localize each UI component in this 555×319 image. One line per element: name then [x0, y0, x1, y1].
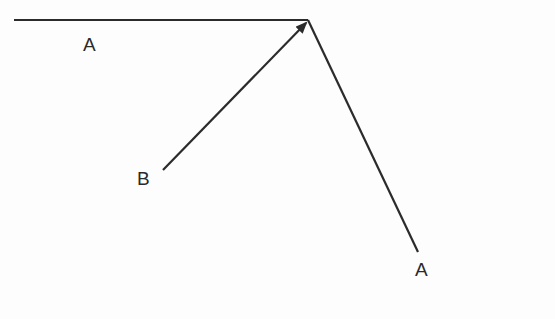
label-a-bottom: A [415, 259, 428, 281]
label-a-top: A [83, 34, 96, 56]
label-b: B [137, 168, 150, 190]
vector-a-diagonal [308, 20, 418, 252]
vector-b-arrow [163, 23, 306, 170]
vector-diagram: A B A [0, 0, 555, 319]
